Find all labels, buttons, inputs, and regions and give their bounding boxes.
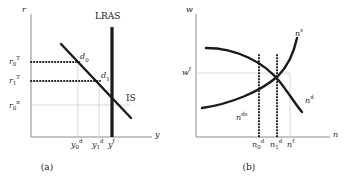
tick-label-y0d: y0d (71, 139, 83, 151)
labor-demand-label: nd (305, 95, 314, 105)
panel-a-x-axis-label: y (155, 131, 160, 139)
economics-two-panel-figure: r y LRAS IS r0T r1T r0n y0d y1d yf d0 d1… (0, 0, 356, 188)
tick-label-nf: nf (287, 139, 294, 149)
tick-label-r1T: r1T (9, 75, 20, 87)
panel-a-caption: (a) (0, 162, 136, 172)
tick-label-r0T: r0T (9, 56, 20, 68)
labor-demand-curve (206, 48, 302, 112)
point-label-d1: d1 (101, 72, 110, 82)
panel-a-plot (0, 0, 178, 188)
point-label-d0: d0 (80, 53, 89, 63)
tick-label-y1d: y1d (92, 139, 104, 151)
panel-b-y-axis-label: w (186, 6, 193, 14)
is-curve (61, 44, 131, 118)
panel-b-x-axis-label: n (333, 131, 338, 139)
panel-a-y-axis-label: r (22, 6, 26, 14)
labor-supply-label: ns (295, 28, 303, 38)
is-label: IS (126, 94, 136, 103)
tick-label-yf: yf (108, 139, 115, 149)
panel-b: w n wf n0d n1d nf ns nd nds (b) (178, 0, 356, 188)
panel-a: r y LRAS IS r0T r1T r0n y0d y1d yf d0 d1… (0, 0, 178, 188)
lras-label: LRAS (95, 12, 120, 21)
panel-b-plot (178, 0, 356, 188)
annotation-nds: nds (236, 112, 248, 122)
tick-label-r0n: r0n (9, 100, 20, 112)
tick-label-n0d: n0d (252, 139, 264, 151)
panel-b-caption: (b) (160, 162, 338, 172)
tick-label-wf: wf (182, 67, 191, 77)
tick-label-n1d: n1d (270, 139, 282, 151)
